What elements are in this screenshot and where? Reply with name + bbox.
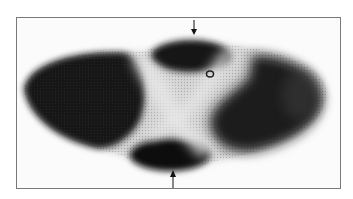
top-arrow-icon xyxy=(191,20,197,35)
micrograph-image xyxy=(0,0,353,199)
bottom-arrow-icon xyxy=(170,170,176,188)
